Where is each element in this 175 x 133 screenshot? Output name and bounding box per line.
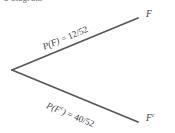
- node-label-f-complement: Fc: [146, 113, 154, 123]
- node-f-symbol: F: [146, 9, 152, 19]
- probability-tree-diagram: a diagram P(F) = 12/52 P(Fc) = 40/52 F F…: [0, 0, 175, 133]
- node-label-f: F: [146, 9, 152, 19]
- branch-line-upper: [12, 18, 138, 70]
- node-fc-superscript: c: [152, 112, 155, 118]
